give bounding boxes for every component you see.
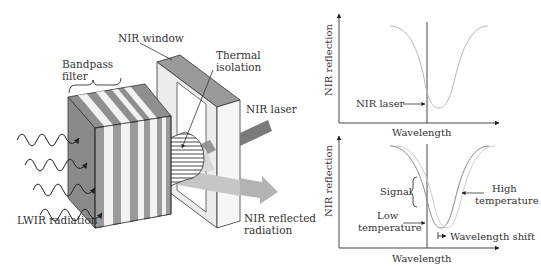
wavelength-shift-label: Wavelength shift: [450, 231, 535, 242]
label-nir-reflected-2: radiation: [244, 224, 293, 236]
label-nir-window: NIR window: [118, 32, 184, 44]
bandpass-filter: [68, 84, 171, 228]
sensor-device: NIR window Bandpass filter Thermal isola…: [17, 32, 316, 236]
top-y-label: NIR reflection: [323, 23, 334, 96]
label-thermal-2: isolation: [216, 61, 262, 73]
bottom-x-label: Wavelength: [392, 253, 452, 264]
label-bandpass-2: filter: [62, 70, 89, 82]
nir-window-leader: [140, 43, 172, 60]
top-laser-label: NIR laser: [356, 98, 405, 109]
label-thermal-1: Thermal: [216, 49, 261, 61]
bottom-graph: Signal High temperature Low temperature …: [323, 136, 539, 264]
top-reflection-curve: [390, 26, 488, 108]
label-lwir-radiation: LWIR radiation: [17, 214, 98, 226]
wavelength-shift-marker: [438, 232, 446, 239]
bottom-y-label: NIR reflection: [323, 144, 334, 217]
label-bandpass-1: Bandpass: [62, 58, 113, 70]
top-x-label: Wavelength: [392, 127, 452, 138]
signal-label: Signal: [380, 186, 412, 197]
nir-laser-beam: [240, 120, 272, 146]
high-temp-label-1: High: [492, 183, 517, 194]
low-temp-label-2: temperature: [358, 222, 422, 233]
label-nir-laser: NIR laser: [246, 103, 298, 115]
diagram-canvas: NIR window Bandpass filter Thermal isola…: [0, 0, 541, 278]
top-graph: NIR laser Wavelength NIR reflection: [323, 14, 499, 138]
low-temp-label-1: Low: [377, 210, 399, 221]
label-nir-reflected-1: NIR reflected: [244, 212, 316, 224]
high-temp-label-2: temperature: [475, 195, 539, 206]
